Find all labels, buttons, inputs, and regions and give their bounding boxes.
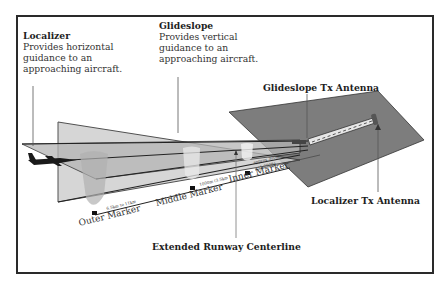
- glideslope-desc-line: guidance to an: [159, 42, 258, 53]
- glideslope-desc-line: Provides vertical: [159, 31, 258, 42]
- glideslope-title: Glideslope: [159, 20, 258, 31]
- glideslope-antenna: [292, 140, 306, 144]
- localizer-desc-line: guidance to an: [23, 52, 122, 63]
- glideslope-antenna-label: Glideslope Tx Antenna: [263, 82, 379, 93]
- localizer-desc-line: approaching aircraft.: [23, 63, 122, 74]
- localizer-desc-line: Provides horizontal: [23, 41, 122, 52]
- localizer-title: Localizer: [23, 30, 122, 41]
- localizer-label: Localizer Provides horizontal guidance t…: [23, 30, 122, 74]
- glideslope-label: Glideslope Provides vertical guidance to…: [159, 20, 258, 64]
- inner-marker-beam: [241, 143, 253, 161]
- glideslope-desc-line: approaching aircraft.: [159, 53, 258, 64]
- localizer-antenna-label: Localizer Tx Antenna: [311, 195, 420, 206]
- centerline-label: Extended Runway Centerline: [152, 241, 301, 252]
- middle-marker-beam: [183, 147, 200, 180]
